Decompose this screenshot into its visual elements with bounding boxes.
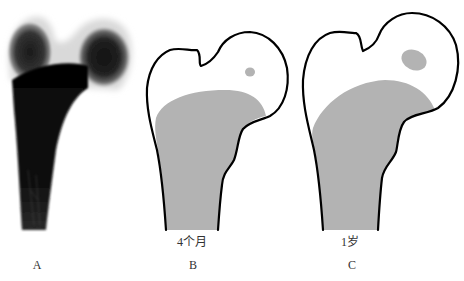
panel-b-caption: 4个月	[177, 236, 207, 248]
femoral-shaft	[12, 63, 88, 230]
ossification-center-large	[398, 45, 430, 74]
panel-a-letter: A	[33, 259, 42, 271]
panel-b-diagram	[147, 32, 288, 230]
panel-b-letter: B	[189, 259, 197, 271]
panel-c-diagram	[303, 13, 458, 230]
figure-drawing	[0, 0, 464, 281]
ossification-center-small	[245, 68, 255, 77]
panel-c-letter: C	[348, 259, 356, 271]
panel-c-caption: 1岁	[341, 236, 359, 248]
ossified-bone-region	[155, 90, 266, 230]
panel-a-xray	[8, 17, 132, 230]
femur-development-figure: 4个月 1岁 A B C	[0, 0, 464, 281]
ossified-bone-region	[312, 80, 435, 230]
